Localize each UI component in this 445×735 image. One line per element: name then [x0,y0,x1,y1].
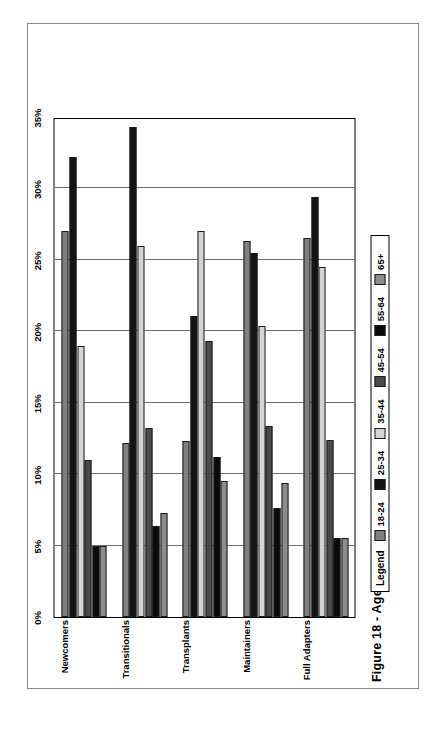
legend-entry: 25-34 [374,450,385,489]
bar [243,241,250,617]
x-axis-tick-label: 10% [31,465,42,484]
bar [61,231,68,617]
bar [137,245,144,616]
legend-label: 35-44 [374,399,385,423]
x-axis-tick-label: 20% [31,322,42,341]
bar-group [54,119,114,617]
category-label: Newcomers [58,620,69,688]
x-axis-tick-label: 5% [31,539,42,553]
legend-label: 18-24 [374,502,385,526]
plot-area [53,118,355,618]
legend-entry: 35-44 [374,399,385,438]
legend-swatch-icon [374,530,385,541]
x-axis-tick-label: 30% [31,179,42,198]
legend-label: 25-34 [374,450,385,474]
bar [205,341,212,617]
legend-swatch-icon [374,376,385,387]
bar-group [175,119,235,617]
legend-swatch-icon [374,427,385,438]
bar [265,425,272,616]
legend-entry: 65+ [374,253,385,284]
legend-entry: 45-54 [374,348,385,387]
rotated-figure-wrapper: Figure 18 - Age Profile of U.S. Hispanic… [0,0,445,735]
figure: Figure 18 - Age Profile of U.S. Hispanic… [25,48,420,688]
bar [213,457,220,617]
legend-label: 45-54 [374,348,385,372]
bar [311,197,318,617]
bar [84,459,91,616]
legend-title: Legend [374,550,385,586]
x-axis-tick-label: 25% [31,251,42,270]
bar [122,442,129,616]
bar-group [235,119,295,617]
legend-swatch-icon [374,325,385,336]
bar [281,482,288,616]
bar [160,512,167,616]
bar [69,157,76,617]
category-label: Maintainers [240,620,251,688]
bar [182,441,189,617]
bar [77,345,84,616]
bar [190,315,197,616]
bar [197,231,204,617]
x-axis-tick-label: 35% [31,108,42,127]
x-axis-tick-label: 0% [31,611,42,625]
category-label: Transplants [179,620,190,688]
bar [152,525,159,616]
legend-swatch-icon [374,479,385,490]
chart: 0%5%10%15%20%25%30%35% NewcomersTransiti… [31,48,361,688]
x-axis-tick-label: 15% [31,394,42,413]
legend-label: 55-64 [374,296,385,320]
bar [99,545,106,616]
category-label: Transitionals [119,620,130,688]
legend-label: 65+ [374,253,385,269]
bar [129,127,136,617]
bar [333,538,340,617]
bar [273,508,280,617]
bar-group [296,119,355,617]
bar [303,238,310,617]
legend-swatch-icon [374,273,385,284]
bar [145,428,152,617]
legend-box: Legend 18-2425-3435-4445-5455-6465+ [370,234,389,591]
category-label: Full Adapters [300,620,311,688]
legend-entry: 55-64 [374,296,385,335]
bar [326,439,333,616]
x-axis-tick-labels: 0%5%10%15%20%25%30%35% [31,118,53,618]
bar [258,325,265,616]
bar [250,252,257,616]
legend-entry: 18-24 [374,502,385,541]
bar [341,538,348,617]
bar [92,545,99,616]
bar [220,481,227,617]
bar [318,267,325,617]
bar-group [114,119,174,617]
